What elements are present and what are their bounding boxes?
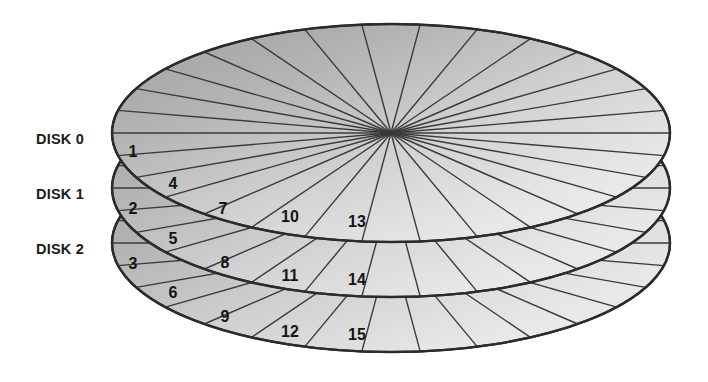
disk-platter xyxy=(112,24,670,242)
disk-label-0: DISK 0 xyxy=(36,131,84,147)
stripe-number: 15 xyxy=(348,326,366,343)
disk-array-svg: 147101325811143691215 xyxy=(0,0,708,382)
disk-layers xyxy=(112,24,670,352)
stripe-number: 10 xyxy=(281,208,299,225)
diagram-canvas: 147101325811143691215 DISK 0DISK 1DISK 2 xyxy=(0,0,708,382)
stripe-number: 3 xyxy=(129,255,138,272)
stripe-number: 14 xyxy=(348,271,366,288)
disk-label-1: DISK 1 xyxy=(36,186,84,202)
stripe-number: 7 xyxy=(219,200,228,217)
stripe-number: 9 xyxy=(221,308,230,325)
stripe-number: 11 xyxy=(282,267,299,284)
stripe-number: 13 xyxy=(348,213,366,230)
stripe-number: 4 xyxy=(169,175,178,192)
disk-label-2: DISK 2 xyxy=(36,241,84,257)
stripe-number: 12 xyxy=(281,323,299,340)
stripe-number: 5 xyxy=(169,230,178,247)
stripe-number: 1 xyxy=(129,143,138,160)
stripe-number: 8 xyxy=(221,254,230,271)
stripe-number: 2 xyxy=(129,200,138,217)
stripe-number: 6 xyxy=(169,284,178,301)
